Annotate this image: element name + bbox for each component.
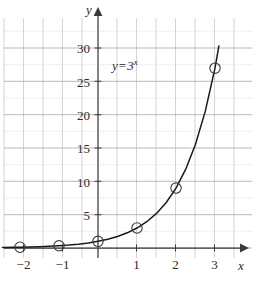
x-tick-label-3: 3	[201, 258, 229, 271]
y-tick-label-15: 15	[62, 142, 90, 155]
exponential-graph-figure: 5 10 15 20 25 30 −2 −1 1 2 3 x y y=3x	[0, 0, 262, 285]
equation-annotation: y=3x	[112, 58, 138, 72]
data-point-marker	[15, 242, 25, 252]
exponential-curve	[2, 46, 218, 248]
x-tick-label-2: 2	[162, 258, 190, 271]
data-point-markers	[15, 63, 220, 252]
x-tick-label-1: 1	[123, 258, 151, 271]
x-tick-label-minus1: −1	[49, 258, 77, 271]
equation-exponent: x	[134, 57, 138, 67]
x-axis-label: x	[238, 259, 244, 272]
data-point-marker	[210, 63, 220, 73]
y-tick-label-5: 5	[66, 209, 90, 222]
data-point-marker	[93, 236, 103, 246]
data-point-marker	[132, 223, 142, 233]
vertical-gridlines	[4, 18, 234, 258]
y-tick-label-30: 30	[62, 42, 90, 55]
equation-lhs: y	[112, 58, 118, 73]
x-axis	[4, 244, 249, 253]
y-tick-label-25: 25	[62, 76, 90, 89]
y-axis-label: y	[86, 3, 92, 16]
y-axis	[94, 7, 103, 258]
data-point-marker	[54, 241, 64, 251]
y-tick-label-10: 10	[62, 176, 90, 189]
x-tick-label-minus2: −2	[10, 258, 38, 271]
plot-canvas	[0, 0, 262, 285]
y-tick-label-20: 20	[62, 109, 90, 122]
data-point-marker	[171, 183, 181, 193]
equation-operator: =	[118, 58, 127, 73]
